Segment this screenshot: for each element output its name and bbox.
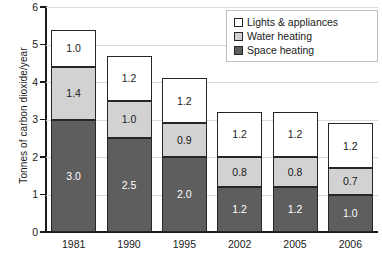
bar-segment[interactable]: 1.0 xyxy=(328,195,373,233)
bar-segment[interactable]: 1.2 xyxy=(273,112,318,157)
legend-swatch-icon xyxy=(234,32,243,41)
bar-group[interactable]: 2.00.91.2 xyxy=(162,7,207,232)
bar-segment[interactable]: 1.4 xyxy=(51,67,96,120)
x-tick-label: 1990 xyxy=(101,239,156,250)
legend-item-label: Water heating xyxy=(247,31,312,42)
legend-swatch-icon xyxy=(234,18,243,27)
legend-item-label: Space heating xyxy=(247,45,314,56)
legend-item-label: Lights & appliances xyxy=(247,17,338,28)
bar-segment[interactable]: 1.2 xyxy=(273,187,318,232)
x-tick-label: 2002 xyxy=(212,239,267,250)
x-tick-label: 2006 xyxy=(323,239,378,250)
y-tick-label: 6 xyxy=(2,2,38,13)
bar-segment[interactable]: 2.0 xyxy=(162,157,207,232)
x-tick-label: 1995 xyxy=(157,239,212,250)
y-tick-label: 5 xyxy=(2,39,38,50)
y-tick-label: 1 xyxy=(2,189,38,200)
legend-item[interactable]: Water heating xyxy=(234,29,372,43)
bar-segment[interactable]: 1.2 xyxy=(162,78,207,123)
bar-segment[interactable]: 1.0 xyxy=(51,30,96,68)
bar-segment[interactable]: 0.8 xyxy=(273,157,318,187)
legend-item[interactable]: Space heating xyxy=(234,43,372,57)
bar-segment[interactable]: 1.0 xyxy=(107,101,152,139)
bar-group[interactable]: 3.01.41.0 xyxy=(51,7,96,232)
chart-legend: Lights & appliancesWater heatingSpace he… xyxy=(226,10,378,62)
stacked-bar[interactable]: 3.01.41.0 xyxy=(51,7,96,232)
stacked-bar[interactable]: 2.51.01.2 xyxy=(107,7,152,232)
bar-segment[interactable]: 0.7 xyxy=(328,168,373,194)
bar-segment[interactable]: 2.5 xyxy=(107,138,152,232)
x-tick-label: 2005 xyxy=(267,239,322,250)
legend-item[interactable]: Lights & appliances xyxy=(234,15,372,29)
stacked-bar[interactable]: 2.00.91.2 xyxy=(162,7,207,232)
bar-segment[interactable]: 3.0 xyxy=(51,120,96,233)
bar-segment[interactable]: 1.2 xyxy=(328,123,373,168)
bar-segment[interactable]: 0.9 xyxy=(162,123,207,157)
bar-group[interactable]: 2.51.01.2 xyxy=(107,7,152,232)
bar-segment[interactable]: 0.8 xyxy=(217,157,262,187)
y-tick-label: 2 xyxy=(2,152,38,163)
bar-segment[interactable]: 1.2 xyxy=(107,56,152,101)
bar-segment[interactable]: 1.2 xyxy=(217,187,262,232)
stacked-bar-chart: Tonnes of carbon dioxide/year 0123456 3.… xyxy=(0,0,382,260)
y-tick-label: 0 xyxy=(2,227,38,238)
x-tick-label: 1981 xyxy=(46,239,101,250)
bar-segment[interactable]: 1.2 xyxy=(217,112,262,157)
y-tick-label: 3 xyxy=(2,114,38,125)
y-tick-label: 4 xyxy=(2,77,38,88)
legend-swatch-icon xyxy=(234,46,243,55)
